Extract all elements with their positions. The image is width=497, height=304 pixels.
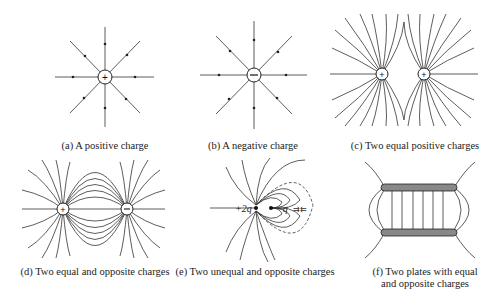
caption-f-line1: (f) Two plates with equal xyxy=(365,266,485,278)
bottom-plate xyxy=(381,229,457,236)
caption-d: (d) Two equal and opposite charges xyxy=(20,266,170,278)
top-plate xyxy=(381,184,457,191)
panel-b-negative-charge xyxy=(200,21,307,129)
panel-a-positive-charge: + xyxy=(55,27,154,127)
arrows-icon: ⇉⇇ xyxy=(293,205,307,214)
panel-c-two-positive-charges: + + xyxy=(330,14,478,126)
caption-e: (e) Two unequal and opposite charges xyxy=(175,266,335,278)
charge-label-plus-2q: +2q xyxy=(235,203,252,214)
caption-b: (b) A negative charge xyxy=(203,140,303,152)
electric-field-diagrams: + xyxy=(0,0,497,304)
svg-text:+: + xyxy=(421,70,426,80)
charge-label-minus-q: −q xyxy=(276,203,288,214)
panel-d-dipole: + xyxy=(22,160,165,258)
svg-text:+: + xyxy=(60,205,65,215)
svg-text:+: + xyxy=(102,72,108,83)
caption-f-line2: and opposite charges xyxy=(365,278,485,290)
caption-c: (c) Two equal positive charges xyxy=(345,140,485,152)
panel-e-unequal-charges: +2q −q ⇉⇇ xyxy=(210,158,313,262)
panel-f-parallel-plates xyxy=(365,162,475,258)
caption-a: (a) A positive charge xyxy=(55,140,155,152)
svg-text:+: + xyxy=(379,70,384,80)
